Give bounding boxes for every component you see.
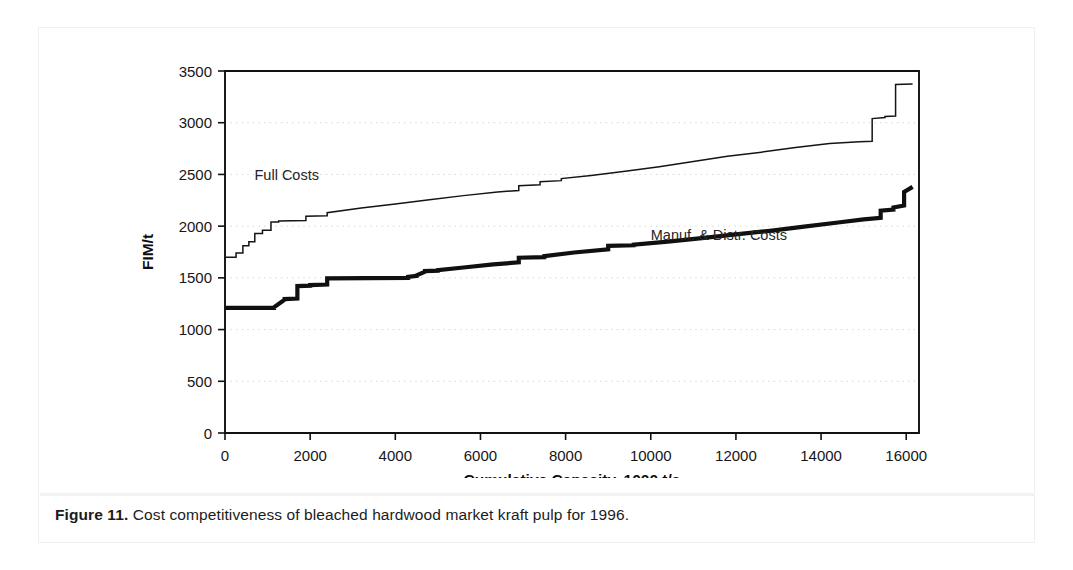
- x-axis-title: Cumulative Capacity, 1000 t/a: [464, 471, 681, 478]
- y-axis-tick-labels: 0500100015002000250030003500: [179, 63, 212, 442]
- y-tick-label: 3500: [179, 63, 212, 80]
- x-tick-label: 0: [221, 447, 229, 464]
- y-tick-label: 0: [204, 425, 212, 442]
- x-tick-label: 4000: [379, 447, 412, 464]
- series-full-costs: [225, 84, 913, 257]
- y-tick-label: 500: [187, 373, 212, 390]
- figure-container: 0500100015002000250030003500 02000400060…: [38, 27, 1035, 543]
- y-tick-label: 2500: [179, 166, 212, 183]
- figure-caption-text: Cost competitiveness of bleached hardwoo…: [128, 506, 629, 523]
- y-tick-label: 2000: [179, 218, 212, 235]
- manuf-distr-label: Manuf. & Distr. Costs: [651, 227, 787, 243]
- x-tick-label: 10000: [630, 447, 672, 464]
- figure-caption: Figure 11. Cost competitiveness of bleac…: [55, 506, 1015, 524]
- x-tick-label: 8000: [549, 447, 582, 464]
- x-tick-label: 2000: [293, 447, 326, 464]
- caption-divider: [40, 493, 1035, 496]
- x-tick-label: 6000: [464, 447, 497, 464]
- figure-number: Figure 11.: [55, 506, 128, 523]
- series-manuf-distr-costs: [225, 187, 913, 308]
- x-axis-tick-labels: 0200040006000800010000120001400016000: [221, 447, 927, 464]
- y-tick-label: 1000: [179, 321, 212, 338]
- y-axis-ticks-group: [218, 71, 225, 433]
- y-tick-label: 3000: [179, 114, 212, 131]
- x-tick-label: 16000: [885, 447, 927, 464]
- y-axis-title: FIM/t: [139, 234, 156, 270]
- x-tick-label: 14000: [800, 447, 842, 464]
- x-tick-label: 12000: [715, 447, 757, 464]
- full-costs-label: Full Costs: [255, 167, 319, 183]
- chart-plot-area: 0500100015002000250030003500 02000400060…: [39, 28, 1036, 478]
- data-series-group: [225, 84, 913, 308]
- cost-curve-chart: 0500100015002000250030003500 02000400060…: [39, 28, 1036, 478]
- x-axis-ticks-group: [225, 433, 906, 440]
- series-annotations-group: Full CostsManuf. & Distr. Costs: [255, 167, 787, 243]
- y-tick-label: 1500: [179, 269, 212, 286]
